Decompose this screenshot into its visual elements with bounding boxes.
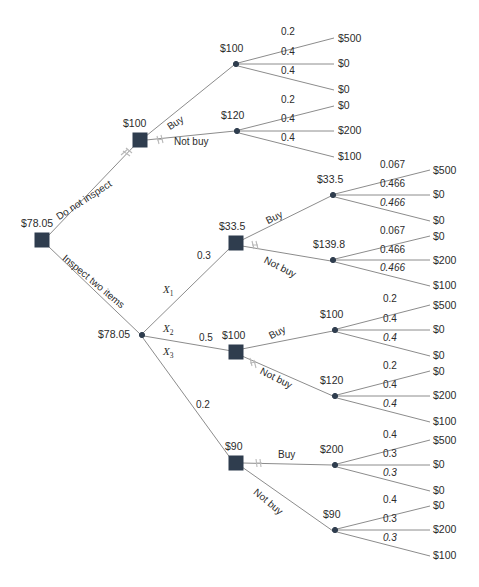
node-value-top-buy: $100 [220, 43, 243, 54]
edge-x3-buy [242, 463, 333, 465]
x1-var: X [163, 283, 170, 295]
node-value-top-not-buy: $120 [221, 110, 244, 121]
prob-inspect-x1: 0.3 [197, 251, 211, 261]
node-value-root: $78.05 [21, 218, 53, 229]
edge-label-x1: X1 [163, 284, 173, 298]
node-value-x2-buy: $100 [320, 309, 343, 320]
node-value-x3-buy: $200 [320, 444, 343, 455]
prob-top-buy-3: 0.4 [281, 66, 295, 76]
outcome-top-notbuy-2: $200 [338, 125, 361, 136]
prob-top-notbuy-1: 0.2 [281, 95, 295, 105]
edge-x1-buy [242, 196, 331, 240]
outcome-x3-buy-2: $0 [433, 459, 445, 470]
prob-top-buy-2: 0.4 [281, 47, 295, 57]
edge-top-buy [146, 65, 234, 136]
outcome-x1-notbuy-1: $0 [433, 231, 445, 242]
outcome-x1-buy-1: $500 [433, 165, 456, 176]
edge-inspect-x3 [143, 338, 231, 459]
edge-label-x2: X2 [163, 323, 173, 337]
x2-sub: 2 [170, 328, 174, 337]
node-value-x2-not-buy: $120 [320, 375, 343, 386]
outcome-x1-buy-3: $0 [433, 215, 445, 226]
outcome-x2-notbuy-1: $0 [433, 366, 445, 377]
prob-top-notbuy-2: 0.4 [281, 114, 295, 124]
node-value-x1-not-buy: $139.8 [313, 239, 345, 250]
node-top-buy-chance[interactable] [233, 61, 238, 66]
node-value-x3-not-buy: $90 [323, 509, 341, 520]
prob-x3-notbuy-3: 0.3 [383, 533, 397, 543]
node-x2-decision[interactable] [229, 345, 243, 359]
edge-x2-buy [242, 331, 333, 349]
prob-x1-buy-3: 0.466 [380, 198, 405, 208]
outcome-x2-notbuy-2: $200 [433, 390, 456, 401]
prob-x1-buy-2: 0.466 [380, 179, 405, 189]
node-top-decision[interactable] [133, 133, 147, 147]
prob-top-buy-1: 0.2 [281, 27, 295, 37]
outcome-x1-notbuy-3: $100 [433, 280, 456, 291]
prob-x2-notbuy-1: 0.2 [383, 361, 397, 371]
outcome-top-buy-2: $0 [338, 58, 350, 69]
prob-x1-notbuy-1: 0.067 [380, 226, 405, 236]
outcome-x3-buy-1: $500 [433, 435, 456, 446]
prune-mark-x3-buy [256, 459, 262, 467]
prob-inspect-x2: 0.5 [199, 333, 213, 343]
node-value-x2-decision: $100 [222, 330, 245, 341]
node-x3-decision[interactable] [229, 456, 243, 470]
x3-var: X [163, 345, 170, 357]
edge-label-x3: X3 [163, 346, 173, 360]
outcome-x3-notbuy-2: $200 [433, 524, 456, 535]
node-top-notbuy-chance[interactable] [234, 128, 239, 133]
outcome-x3-buy-3: $0 [433, 485, 445, 496]
tree-edges-layer [0, 0, 479, 587]
edge-inspect-x2 [144, 336, 232, 351]
prob-top-notbuy-3: 0.4 [281, 133, 295, 143]
node-root-decision[interactable] [35, 233, 49, 247]
outcome-x2-buy-1: $500 [433, 300, 456, 311]
node-x3-notbuy-chance[interactable] [332, 527, 337, 532]
prune-mark-x2-not-buy [250, 358, 256, 368]
prob-x3-buy-2: 0.3 [383, 449, 397, 459]
prob-x2-buy-3: 0.4 [383, 333, 397, 343]
prob-x2-buy-1: 0.2 [383, 294, 397, 304]
node-x1-buy-chance[interactable] [330, 192, 335, 197]
node-value-inspect-chance: $78.05 [98, 329, 130, 340]
x1-sub: 1 [170, 289, 174, 298]
edge-inspect-x1 [143, 246, 232, 333]
prob-x3-notbuy-1: 0.4 [383, 495, 397, 505]
decision-tree-diagram: $78.05 Do not inspect Inspect two items … [0, 0, 479, 587]
node-value-x3-decision: $90 [225, 441, 243, 452]
node-x1-decision[interactable] [229, 236, 243, 250]
outcome-top-buy-1: $500 [338, 33, 361, 44]
x2-var: X [163, 322, 170, 334]
outcome-x1-buy-2: $0 [433, 189, 445, 200]
x3-sub: 3 [170, 351, 174, 360]
edge-x3-not-buy [242, 467, 333, 531]
prob-x3-notbuy-2: 0.3 [383, 514, 397, 524]
prob-x1-buy-1: 0.067 [380, 160, 405, 170]
outcome-x2-notbuy-3: $100 [433, 416, 456, 427]
outcome-x3-notbuy-1: $0 [433, 500, 445, 511]
prob-x3-buy-1: 0.4 [383, 430, 397, 440]
prob-x1-notbuy-3: 0.466 [380, 263, 405, 273]
prob-x2-notbuy-2: 0.4 [383, 380, 397, 390]
outcome-top-buy-3: $0 [338, 84, 350, 95]
outcome-x1-notbuy-2: $200 [433, 255, 456, 266]
edge-label-top-not-buy: Not buy [174, 137, 208, 147]
prob-x2-notbuy-3: 0.4 [383, 399, 397, 409]
outcome-x2-buy-3: $0 [433, 350, 445, 361]
node-x1-notbuy-chance[interactable] [330, 257, 335, 262]
outcome-x3-notbuy-3: $100 [433, 550, 456, 561]
node-value-x1-buy: $33.5 [317, 174, 343, 185]
outcome-x2-buy-2: $0 [433, 324, 445, 335]
node-inspect-chance[interactable] [139, 332, 144, 337]
prob-x2-buy-2: 0.4 [383, 314, 397, 324]
node-value-top-decision: $100 [123, 118, 146, 129]
node-value-x1-decision: $33.5 [219, 221, 245, 232]
outcome-top-notbuy-1: $0 [338, 100, 350, 111]
edge-label-x3-buy: Buy [278, 450, 295, 460]
node-x2-notbuy-chance[interactable] [332, 393, 337, 398]
node-x2-buy-chance[interactable] [332, 327, 337, 332]
prob-inspect-x3: 0.2 [196, 400, 210, 410]
prune-mark-top-not-buy [157, 135, 163, 144]
node-x3-buy-chance[interactable] [332, 462, 337, 467]
